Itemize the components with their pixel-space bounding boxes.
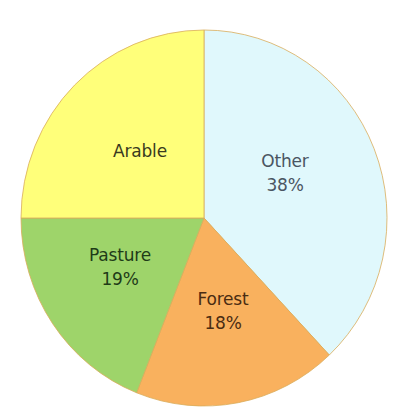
slice-name-forest: Forest: [198, 287, 249, 311]
slice-name-pasture: Pasture: [89, 243, 151, 267]
slice-label-pasture: Pasture 19%: [89, 243, 151, 291]
slice-name-other: Other: [261, 149, 308, 173]
slice-label-arable: Arable: [113, 139, 167, 163]
slice-value-pasture: 19%: [89, 267, 151, 291]
pie-slices: [21, 30, 387, 406]
slice-label-other: Other 38%: [261, 149, 308, 197]
slice-name-arable: Arable: [113, 139, 167, 163]
slice-value-forest: 18%: [198, 311, 249, 335]
pie-slice-arable: [21, 30, 204, 218]
slice-label-forest: Forest 18%: [198, 287, 249, 335]
pie-chart: [0, 0, 398, 419]
slice-value-other: 38%: [261, 173, 308, 197]
